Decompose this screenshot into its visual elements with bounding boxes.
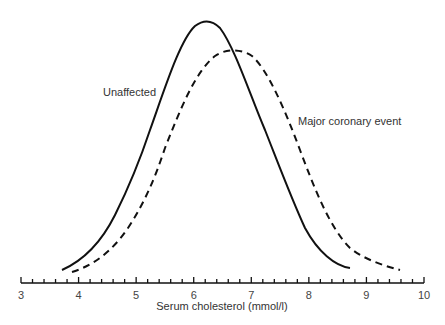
- x-tick-label: 9: [363, 289, 369, 301]
- chart: Unaffected Major coronary event 34567891…: [0, 0, 445, 325]
- x-tick-label: 8: [306, 289, 312, 301]
- x-axis: 345678910 Serum cholesterol (mmol/l): [18, 277, 430, 312]
- unaffected-curve: [62, 22, 350, 270]
- coronary-event-label: Major coronary event: [298, 115, 401, 127]
- coronary-event-curve: [72, 50, 400, 272]
- x-tick-label: 4: [76, 289, 82, 301]
- unaffected-label: Unaffected: [103, 86, 156, 98]
- x-tick-label: 10: [418, 289, 430, 301]
- x-axis-title: Serum cholesterol (mmol/l): [156, 300, 287, 312]
- x-tick-label: 5: [133, 289, 139, 301]
- x-tick-label: 3: [18, 289, 24, 301]
